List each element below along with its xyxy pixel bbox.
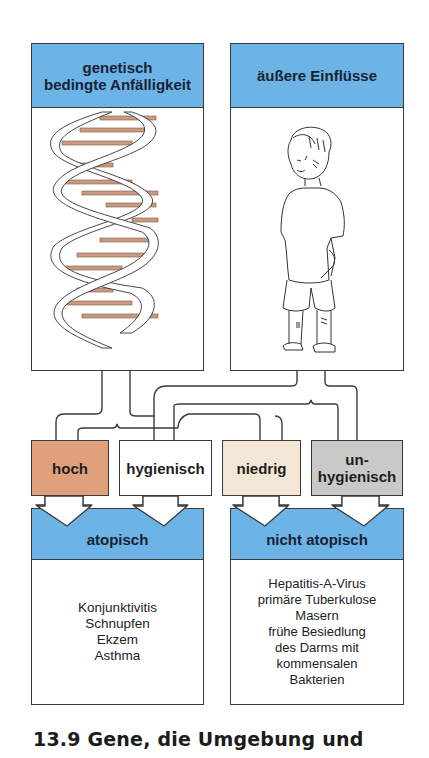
list-item: kommensalen: [277, 656, 358, 672]
child-figure-icon: [231, 108, 402, 370]
non-atopic-conditions-list: Hepatitis-A-Virus primäre Tuberkulose Ma…: [230, 559, 404, 705]
factor-niedrig: niedrig: [222, 440, 301, 496]
factor-label: hoch: [52, 460, 88, 477]
header-line-2: bedingte Anfälligkeit: [44, 76, 191, 93]
list-item: Ekzem: [97, 632, 138, 648]
header-text: äußere Einflüsse: [257, 67, 377, 84]
outcome-title: atopisch: [87, 531, 149, 548]
factor-label: hygienisch: [126, 460, 204, 477]
list-item: frühe Besiedlung: [268, 624, 366, 640]
dna-panel: [31, 107, 204, 371]
list-item: Bakterien: [290, 672, 345, 688]
factor-label-line-2: hygienisch: [318, 468, 396, 485]
atopic-header: atopisch: [31, 508, 204, 560]
list-item: Asthma: [95, 648, 141, 664]
header-line-1: genetisch: [82, 59, 152, 76]
child-panel: [230, 107, 404, 371]
factor-hoch: hoch: [31, 440, 109, 496]
figure-caption: 13.9 Gene, die Umgebung und: [33, 728, 363, 750]
list-item: primäre Tuberkulose: [258, 592, 377, 608]
atopic-conditions-list: Konjunktivitis Schnupfen Ekzem Asthma: [31, 559, 204, 705]
factor-label: niedrig: [236, 460, 286, 477]
outcome-title: nicht atopisch: [266, 531, 368, 548]
factor-label-line-1: un-: [345, 451, 368, 468]
genetic-predisposition-header: genetisch bedingte Anfälligkeit: [31, 43, 204, 108]
non-atopic-header: nicht atopisch: [230, 508, 404, 560]
list-item: Konjunktivitis: [78, 600, 157, 616]
list-item: Hepatitis-A-Virus: [268, 576, 365, 592]
list-item: Schnupfen: [85, 616, 150, 632]
external-influences-header: äußere Einflüsse: [230, 43, 404, 108]
factor-unhygienisch: un- hygienisch: [311, 440, 403, 496]
list-item: des Darms mit: [275, 640, 359, 656]
factor-hygienisch: hygienisch: [119, 440, 212, 496]
list-item: Masern: [295, 608, 338, 624]
dna-helix-icon: [32, 108, 202, 370]
